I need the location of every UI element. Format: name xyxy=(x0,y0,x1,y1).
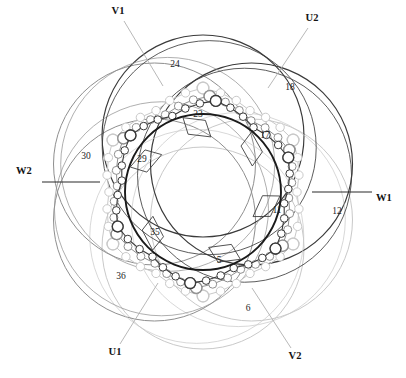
winding-diagram-canvas: 5111723293524181263630V1U2W2W1U1V2 xyxy=(0,0,406,378)
slot-node xyxy=(172,273,180,281)
slot-node xyxy=(216,287,224,295)
slot-node xyxy=(227,104,235,112)
slot-node xyxy=(136,113,144,121)
slot-node xyxy=(118,177,126,185)
coil-terminal-node xyxy=(112,221,123,232)
terminal-label: V1 xyxy=(112,5,125,16)
slot-tag-label: 5 xyxy=(217,255,222,265)
slot-node xyxy=(124,243,132,251)
slot-node xyxy=(274,134,282,142)
terminal-label: U1 xyxy=(109,346,122,357)
terminal-label: U2 xyxy=(306,12,319,23)
slot-node xyxy=(159,264,167,272)
coil-terminal-node xyxy=(270,243,281,254)
slot-node xyxy=(152,106,160,114)
slot-node xyxy=(286,170,294,178)
terminal-label: V2 xyxy=(289,350,302,361)
outer-slot-number: 6 xyxy=(246,303,251,313)
slot-node xyxy=(293,222,301,230)
winding-diagram-svg: 5111723293524181263630V1U2W2W1U1V2 xyxy=(0,0,406,378)
slot-node xyxy=(136,262,144,270)
slot-node xyxy=(246,106,254,114)
outer-slot-number: 12 xyxy=(332,206,342,216)
slot-node xyxy=(105,188,113,196)
terminal-label: W2 xyxy=(16,165,32,176)
slot-tag-label: 11 xyxy=(272,205,281,215)
slot-tag-label: 23 xyxy=(193,109,203,119)
coil-terminal-node xyxy=(210,96,221,107)
slot-tag-label: 29 xyxy=(137,154,147,164)
slot-node xyxy=(276,123,284,131)
coil-terminal-node xyxy=(125,130,136,141)
outer-slot-number: 18 xyxy=(285,82,295,92)
slot-node xyxy=(118,162,126,170)
slot-node xyxy=(293,188,301,196)
slot-node xyxy=(140,122,148,130)
slot-node xyxy=(114,191,122,199)
slot-node xyxy=(202,277,210,285)
slot-node xyxy=(259,254,267,262)
slot-node xyxy=(239,113,247,121)
slot-node xyxy=(274,141,282,149)
slot-node xyxy=(152,269,160,277)
slot-node xyxy=(122,253,130,261)
slot-node xyxy=(154,116,162,124)
slot-node xyxy=(244,261,252,269)
slot-node xyxy=(293,153,301,161)
slot-node xyxy=(103,171,111,179)
slot-node xyxy=(181,89,189,97)
slot-node xyxy=(113,207,121,215)
slot-node xyxy=(121,147,129,155)
terminal-label: W1 xyxy=(376,192,392,203)
outer-slot-number: 24 xyxy=(170,59,180,69)
slot-node xyxy=(124,235,132,243)
slot-node xyxy=(182,105,190,113)
slot-node xyxy=(104,222,112,230)
slot-node xyxy=(261,113,269,121)
slot-node xyxy=(278,230,286,238)
slot-node xyxy=(280,215,288,223)
slot-node xyxy=(166,96,174,104)
slot-node xyxy=(261,262,269,270)
slot-node xyxy=(104,153,112,161)
slot-node xyxy=(217,272,225,280)
slot-tag-label: 35 xyxy=(150,227,160,237)
slot-node xyxy=(295,205,303,213)
slot-node xyxy=(136,245,144,253)
coil-terminal-node xyxy=(107,134,119,146)
coil-terminal-node xyxy=(283,152,294,163)
coil-terminal-node xyxy=(185,278,196,289)
slot-node xyxy=(232,96,240,104)
slot-node xyxy=(166,279,174,287)
slot-node xyxy=(285,185,293,193)
coil-terminal-node xyxy=(287,238,299,250)
slot-node xyxy=(103,205,111,213)
slot-tag-label: 17 xyxy=(260,130,270,140)
outer-slot-number: 30 xyxy=(81,151,91,161)
slot-node xyxy=(232,279,240,287)
outer-slot-number: 36 xyxy=(116,271,126,281)
slot-node xyxy=(246,269,254,277)
slot-node xyxy=(295,171,303,179)
slot-node xyxy=(196,100,204,108)
slot-node xyxy=(137,252,145,260)
diagram-background xyxy=(0,0,406,378)
